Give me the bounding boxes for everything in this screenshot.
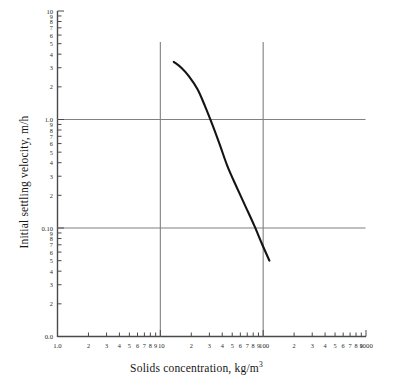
- chart-plot-area: 10987654321.0987654320.10987654320.0 1.0…: [0, 0, 393, 382]
- y-axis-tick-labels: 10987654321.0987654320.10987654320.0: [41, 8, 53, 341]
- svg-text:2: 2: [190, 342, 193, 349]
- svg-text:0.0: 0.0: [45, 333, 54, 340]
- svg-text:7: 7: [50, 133, 53, 140]
- svg-text:4: 4: [50, 51, 54, 58]
- x-axis-title-text: Solids concentration, kg/m: [130, 362, 259, 374]
- svg-text:4: 4: [221, 342, 225, 349]
- svg-text:4: 4: [324, 342, 328, 349]
- svg-text:7: 7: [50, 241, 53, 248]
- svg-text:6: 6: [50, 140, 53, 147]
- svg-text:5: 5: [231, 342, 234, 349]
- svg-text:2: 2: [87, 342, 90, 349]
- svg-text:9: 9: [154, 342, 157, 349]
- svg-text:8: 8: [252, 342, 255, 349]
- x-axis-ticks: [58, 330, 367, 337]
- svg-text:3: 3: [50, 64, 53, 71]
- x-axis-title-exponent: 3: [259, 360, 263, 369]
- svg-text:6: 6: [50, 32, 53, 39]
- svg-text:6: 6: [136, 342, 139, 349]
- svg-text:6: 6: [342, 342, 345, 349]
- svg-text:5: 5: [50, 257, 53, 264]
- svg-text:6: 6: [50, 249, 53, 256]
- svg-text:7: 7: [50, 24, 53, 31]
- x-axis-title: Solids concentration, kg/m3: [0, 360, 393, 374]
- svg-text:100: 100: [259, 342, 270, 349]
- svg-text:5: 5: [128, 342, 131, 349]
- svg-text:7: 7: [246, 342, 249, 349]
- gridlines: [58, 42, 366, 337]
- svg-text:5: 5: [333, 342, 336, 349]
- svg-text:4: 4: [50, 159, 54, 166]
- svg-text:8: 8: [149, 342, 152, 349]
- svg-text:1.0: 1.0: [53, 342, 62, 349]
- svg-text:3: 3: [50, 173, 53, 180]
- data-curve: [174, 62, 270, 261]
- svg-text:4: 4: [118, 342, 122, 349]
- svg-text:3: 3: [105, 342, 108, 349]
- settling-velocity-chart: 10987654321.0987654320.10987654320.0 1.0…: [0, 0, 393, 382]
- svg-text:2: 2: [50, 192, 53, 199]
- svg-text:3: 3: [311, 342, 314, 349]
- svg-text:7: 7: [348, 342, 351, 349]
- svg-text:1000: 1000: [359, 342, 373, 349]
- svg-text:8: 8: [354, 342, 357, 349]
- svg-text:10: 10: [158, 342, 165, 349]
- svg-text:5: 5: [50, 40, 53, 47]
- x-axis-tick-labels: 1.0234567891023456789100234567891000: [53, 342, 373, 349]
- svg-text:6: 6: [239, 342, 242, 349]
- axis-frame: [58, 11, 367, 337]
- svg-text:4: 4: [50, 268, 54, 275]
- svg-text:3: 3: [50, 281, 53, 288]
- y-axis-ticks: [58, 11, 65, 337]
- svg-text:7: 7: [143, 342, 146, 349]
- svg-text:2: 2: [293, 342, 296, 349]
- svg-text:3: 3: [208, 342, 211, 349]
- svg-text:2: 2: [50, 300, 53, 307]
- svg-text:2: 2: [50, 83, 53, 90]
- y-axis-title: Initial settling velocity, m/h: [18, 72, 30, 292]
- svg-text:5: 5: [50, 149, 53, 156]
